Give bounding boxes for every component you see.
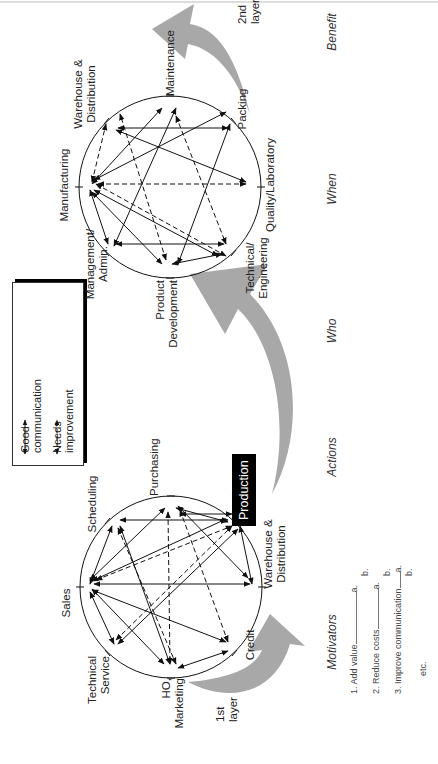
motivator-1: 1. Add valuea. — [349, 585, 359, 694]
node-warehouse-distribution-2: Warehouse &Distribution — [72, 59, 98, 128]
node-technical-engineering: Technical/Engineering — [244, 237, 270, 298]
motivators-etc: etc. — [418, 661, 428, 676]
node-ho-marketing: HO,Marketing — [160, 678, 186, 729]
column-when: When — [326, 173, 339, 204]
dashed-arrow-icon — [51, 417, 63, 457]
legend-box: Goodcommunication Needsimprovement — [12, 282, 84, 466]
column-benefit: Benefit — [326, 13, 339, 50]
motivator-2: 2. Reduce costsa. — [371, 582, 381, 694]
motivator-1-b: b. — [360, 568, 370, 576]
node-packing: Packing — [236, 89, 249, 130]
node-management-admin: Management/Admin. — [84, 229, 110, 299]
node-maintenance: Maintenance — [164, 30, 177, 96]
column-motivators: Motivators — [326, 614, 339, 669]
node-warehouse-distribution-1: Warehouse &Distribution — [262, 519, 288, 588]
motivator-3-b: b. — [404, 568, 414, 576]
column-actions: Actions — [326, 437, 339, 476]
node-sales: Sales — [60, 589, 73, 618]
motivator-2-b: b. — [382, 568, 392, 576]
layer1-needs-improvement-links — [96, 510, 232, 664]
layer1-label: 1stlayer — [214, 697, 240, 722]
layer2-needs-improvement-links — [92, 114, 246, 260]
motivator-3: 3. Improve communicationa. — [393, 565, 403, 694]
layer2-good-links — [90, 108, 246, 264]
layer2-label: 2ndlayer — [236, 0, 262, 24]
legend-item-good: Goodcommunication — [19, 379, 43, 457]
node-purchasing: Purchasing — [148, 438, 161, 496]
diagram-canvas: Goodcommunication Needsimprovement Sales… — [0, 0, 438, 764]
legend-item-needs: Needsimprovement — [51, 389, 75, 457]
node-product-development: ProductDevelopment — [154, 280, 180, 348]
column-who: Who — [326, 319, 339, 344]
node-manufacturing: Manufacturing — [58, 149, 71, 222]
node-technical-service: TechnicalService — [86, 656, 112, 704]
node-scheduling: Scheduling — [86, 476, 99, 533]
node-quality-laboratory: Quality/Laboratory — [264, 138, 277, 232]
node-production-highlight: Production — [232, 454, 256, 526]
legend-good-line2: communication — [31, 379, 43, 453]
legend-needs-line2: improvement — [63, 389, 75, 453]
node-credit: Credit — [244, 630, 257, 661]
solid-arrow-icon — [19, 417, 31, 457]
